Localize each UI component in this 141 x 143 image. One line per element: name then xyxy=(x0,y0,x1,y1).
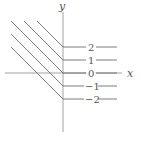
x-axis-label: x xyxy=(127,67,134,80)
level-curves-diagram: y x 2 1 0 −1 −2 xyxy=(0,0,141,143)
level-label: 2 xyxy=(88,42,94,53)
level-label: −2 xyxy=(85,94,100,105)
level-label: −1 xyxy=(85,81,100,92)
level-curve-minus-2: −2 xyxy=(11,47,117,105)
level-curve-2: 2 xyxy=(37,21,117,53)
level-curve-1: 1 xyxy=(24,21,117,66)
level-label: 0 xyxy=(88,68,94,79)
y-axis-label: y xyxy=(58,0,66,13)
level-label: 1 xyxy=(88,55,94,66)
